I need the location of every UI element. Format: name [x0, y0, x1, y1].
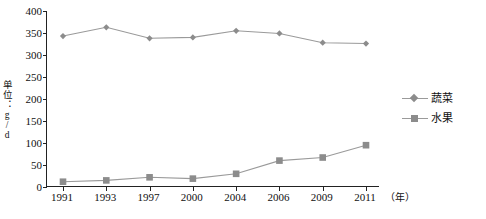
y-tick-label: 100: [14, 138, 42, 149]
diamond-marker-icon: [103, 24, 109, 30]
y-tick-label: 0: [14, 182, 42, 193]
y-tick-label: 50: [14, 160, 42, 171]
square-marker-icon: [402, 112, 428, 124]
y-tick-label: 350: [14, 28, 42, 39]
y-tick-mark: [43, 121, 47, 122]
diamond-marker-icon: [233, 28, 239, 34]
y-axis-tick-labels: 050100150200250300350400: [14, 0, 42, 219]
y-tick-mark: [43, 187, 47, 188]
y-tick-label: 150: [14, 116, 42, 127]
y-tick-label: 200: [14, 94, 42, 105]
square-marker-icon: [363, 142, 370, 149]
y-tick-label: 300: [14, 50, 42, 61]
y-tick-label: 400: [14, 6, 42, 17]
x-tick-label: 2004: [224, 191, 246, 204]
square-marker-icon: [319, 154, 326, 161]
x-axis-tick-labels: 19911993199720002004200620092011: [46, 191, 379, 211]
diamond-marker-icon: [363, 40, 369, 46]
square-marker-icon: [60, 178, 67, 185]
x-axis-unit-label: （年）: [385, 191, 415, 204]
chart-figure: 单位：g/d 050100150200250300350400 19911993…: [0, 0, 486, 219]
diamond-marker-icon: [402, 92, 428, 104]
x-tick-label: 1993: [94, 191, 116, 204]
diamond-marker-icon: [190, 34, 196, 40]
x-tick-label: 2011: [354, 191, 376, 204]
y-tick-mark: [43, 11, 47, 12]
square-marker-icon: [103, 177, 110, 184]
series-vegetables: [60, 24, 369, 46]
diamond-marker-icon: [60, 33, 66, 39]
legend-item-fruits[interactable]: 水果: [402, 108, 486, 128]
y-tick-mark: [43, 99, 47, 100]
legend-item-vegetables[interactable]: 蔬菜: [402, 88, 486, 108]
y-tick-mark: [43, 33, 47, 34]
x-tick-label: 2000: [181, 191, 203, 204]
y-tick-mark: [43, 165, 47, 166]
legend-label-vegetables: 蔬菜: [428, 92, 453, 104]
diamond-marker-icon: [276, 30, 282, 36]
diamond-marker-icon: [320, 40, 326, 46]
diamond-marker-icon: [146, 35, 152, 41]
square-marker-icon: [233, 171, 240, 178]
square-marker-icon: [190, 175, 197, 182]
series-line: [63, 27, 366, 43]
x-tick-label: 1991: [51, 191, 73, 204]
y-tick-mark: [43, 143, 47, 144]
y-tick-label: 250: [14, 72, 42, 83]
plot-area: [46, 11, 379, 187]
y-axis-title: 单位：g/d: [0, 60, 14, 160]
chart-legend: 蔬菜 水果: [402, 88, 486, 128]
square-marker-icon: [276, 157, 283, 164]
x-tick-label: 1997: [138, 191, 160, 204]
square-marker-icon: [146, 174, 153, 181]
series-layer: [47, 11, 380, 187]
y-tick-mark: [43, 55, 47, 56]
series-fruits: [60, 142, 370, 185]
legend-label-fruits: 水果: [428, 112, 453, 124]
x-tick-label: 2006: [267, 191, 289, 204]
y-tick-mark: [43, 77, 47, 78]
series-line: [63, 145, 366, 182]
x-tick-label: 2009: [311, 191, 333, 204]
